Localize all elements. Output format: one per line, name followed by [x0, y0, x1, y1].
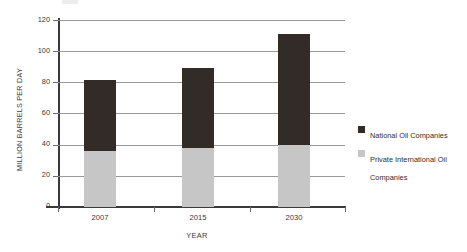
legend-swatch-national: [358, 126, 365, 133]
legend-label-national: National Oil Companies: [370, 131, 448, 140]
y-tick-20: 20: [0, 171, 50, 181]
y-tick-40: 40: [0, 140, 50, 150]
bar-2007-private-segment[interactable]: [84, 151, 116, 207]
x-axis-title: YEAR: [172, 231, 222, 240]
y-tick-120: 120: [0, 16, 50, 26]
bar-2030-private-segment[interactable]: [278, 145, 310, 207]
scan-artifact: [62, 0, 78, 4]
y-tick-label-120: 120: [28, 16, 50, 23]
x-tick-label-2015: 2015: [173, 213, 223, 222]
bar-2007-national-segment[interactable]: [84, 80, 116, 151]
y-tick-label-80: 80: [28, 78, 50, 85]
chart-legend: National Oil Companies Private Internati…: [358, 124, 466, 190]
x-tick-mark-2: [250, 207, 251, 212]
legend-swatch-private: [358, 150, 365, 157]
legend-item-national-oil-companies[interactable]: National Oil Companies: [358, 124, 466, 142]
y-tick-label-100: 100: [28, 47, 50, 54]
x-tick-label-2030: 2030: [269, 213, 319, 222]
y-tick-100: 100: [0, 47, 50, 57]
x-tick-mark-1: [154, 207, 155, 212]
x-tick-label-2007: 2007: [75, 213, 125, 222]
y-tick-60: 60: [0, 109, 50, 119]
y-tick-80: 80: [0, 78, 50, 88]
gridline-120: [58, 20, 345, 21]
legend-label-private: Private International Oil Companies: [370, 155, 447, 182]
x-tick-mark-right: [345, 207, 346, 212]
bar-2015-national-segment[interactable]: [182, 68, 214, 148]
y-tick-label-40: 40: [28, 140, 50, 147]
bar-2030-national-segment[interactable]: [278, 34, 310, 145]
bar-2030[interactable]: [278, 34, 310, 207]
y-tick-label-60: 60: [28, 109, 50, 116]
y-tick-label-20: 20: [28, 171, 50, 178]
bar-2015-private-segment[interactable]: [182, 148, 214, 207]
plot-area: [58, 20, 345, 207]
legend-item-private-international-oil-companies[interactable]: Private International Oil Companies: [358, 148, 466, 184]
stacked-bar-chart: MILLION BARRELS PER DAY 120 100 80 60 40…: [0, 0, 467, 252]
bar-2015[interactable]: [182, 68, 214, 207]
y-tick-0: 0: [0, 202, 50, 212]
x-tick-mark-left: [58, 207, 59, 212]
bar-2007[interactable]: [84, 80, 116, 207]
